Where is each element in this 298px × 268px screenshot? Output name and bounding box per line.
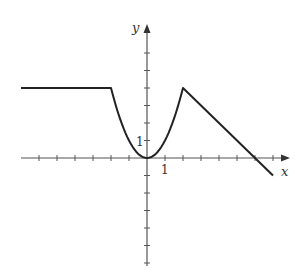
x-axis-arrow-icon	[281, 155, 290, 162]
x-unit-label: 1	[161, 163, 169, 177]
axes	[21, 24, 290, 266]
y-axis-arrow-icon	[144, 24, 151, 33]
function-graph: y x 1 1	[0, 0, 298, 268]
y-unit-label: 1	[136, 135, 144, 149]
x-axis-label: x	[281, 164, 289, 179]
y-axis-label: y	[131, 20, 140, 35]
